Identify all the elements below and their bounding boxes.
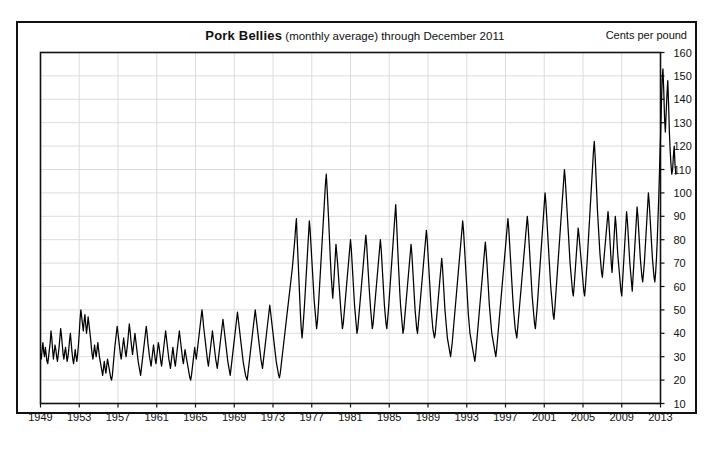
y-tick-label: 10 <box>674 398 686 410</box>
y-tick-label: 150 <box>674 70 692 82</box>
y-tick-label: 140 <box>674 93 692 105</box>
y-tick-label: 30 <box>674 351 686 363</box>
y-tick-label: 90 <box>674 210 686 222</box>
x-tick-label: 1989 <box>416 411 440 423</box>
x-tick-label: 1969 <box>222 411 246 423</box>
x-tick-label: 1957 <box>106 411 130 423</box>
x-tick-label: 1993 <box>455 411 479 423</box>
chart-page: Pork Bellies (monthly average) through D… <box>0 0 715 455</box>
y-tick-label: 100 <box>674 187 692 199</box>
y-tick-label: 20 <box>674 374 686 386</box>
x-tick-label: 1981 <box>338 411 362 423</box>
y-tick-label: 70 <box>674 257 686 269</box>
y-tick-label: 120 <box>674 140 692 152</box>
y-tick-label: 40 <box>674 327 686 339</box>
x-tick-label: 2001 <box>532 411 556 423</box>
x-tick-label: 1961 <box>145 411 169 423</box>
y-axis-tick-labels: 102030405060708090100110120130140150160 <box>674 47 692 410</box>
x-tick-label: 2009 <box>610 411 634 423</box>
x-tick-label: 1973 <box>261 411 285 423</box>
x-tick-label: 1965 <box>183 411 207 423</box>
tick-marks-layer <box>41 53 665 408</box>
y-tick-label: 130 <box>674 117 692 129</box>
x-tick-label: 1997 <box>493 411 517 423</box>
x-axis-tick-labels: 1949195319571961196519691973197719811985… <box>28 411 672 423</box>
y-tick-label: 50 <box>674 304 686 316</box>
x-tick-label: 1977 <box>300 411 324 423</box>
y-tick-label: 60 <box>674 281 686 293</box>
x-tick-label: 1985 <box>377 411 401 423</box>
x-tick-label: 2013 <box>648 411 672 423</box>
y-tick-label: 160 <box>674 47 692 59</box>
x-tick-label: 1953 <box>67 411 91 423</box>
price-line-chart: 102030405060708090100110120130140150160 … <box>0 0 715 455</box>
x-tick-label: 2005 <box>571 411 595 423</box>
y-tick-label: 80 <box>674 234 686 246</box>
x-tick-label: 1949 <box>28 411 52 423</box>
y-tick-label: 110 <box>674 164 692 176</box>
